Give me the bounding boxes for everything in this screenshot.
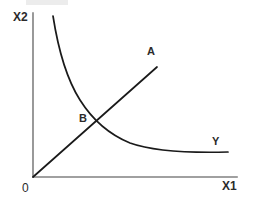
y-axis-label: X2 bbox=[13, 11, 28, 23]
expansion-path-ray-a bbox=[33, 67, 157, 177]
isoquant-label-y: Y bbox=[212, 136, 219, 147]
ray-label-a: A bbox=[147, 46, 155, 57]
figure-container: X2 X1 0 A B Y bbox=[0, 0, 253, 204]
x-axis-label: X1 bbox=[222, 180, 237, 192]
origin-label: 0 bbox=[22, 182, 29, 194]
isoquant-curve-y bbox=[53, 16, 228, 152]
diagram-canvas bbox=[0, 0, 253, 204]
intersection-label-b: B bbox=[79, 113, 87, 124]
